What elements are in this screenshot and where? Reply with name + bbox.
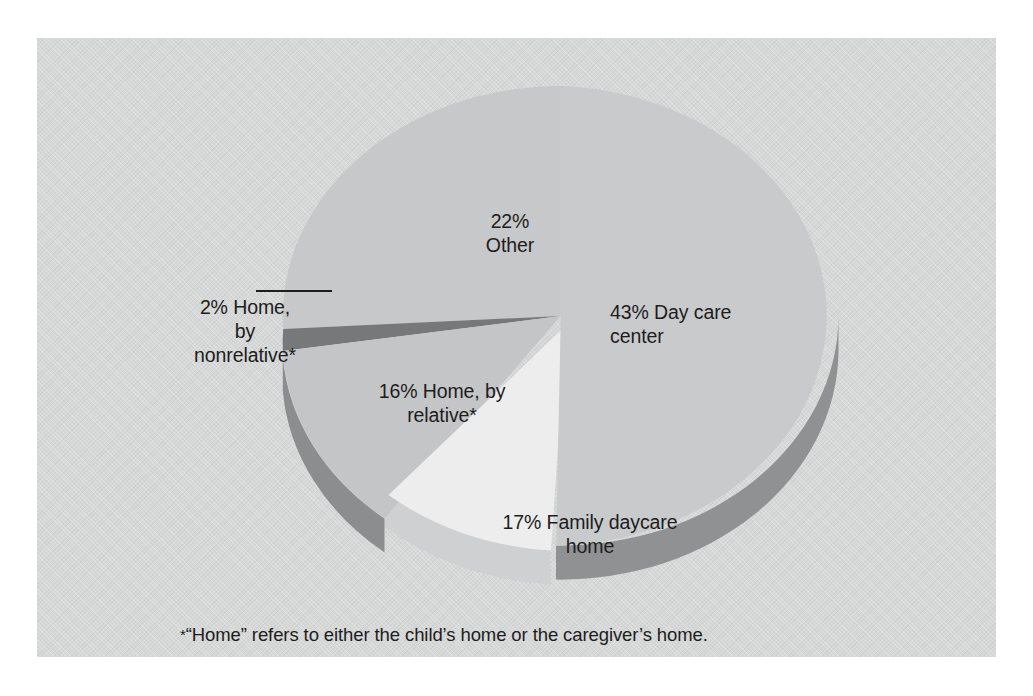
pie-label-day-care-center: 43% Day care center — [610, 300, 820, 348]
pie-label-family-daycare-home: 17% Family daycare home — [455, 510, 725, 558]
pie-slice-other — [283, 86, 561, 329]
chart-panel: 43% Day care center 22% Other 16% Home, … — [37, 38, 996, 657]
pie-label-home-by-nonrelative: 2% Home, by nonrelative* — [165, 295, 325, 367]
pie-label-home-by-relative: 16% Home, by relative* — [327, 379, 557, 427]
chart-footnote: *“Home” refers to either the child’s hom… — [180, 624, 708, 646]
pie-label-other: 22% Other — [420, 209, 600, 257]
footnote-text: “Home” refers to either the child’s home… — [186, 624, 708, 645]
figure-root: 43% Day care center 22% Other 16% Home, … — [0, 0, 1033, 696]
